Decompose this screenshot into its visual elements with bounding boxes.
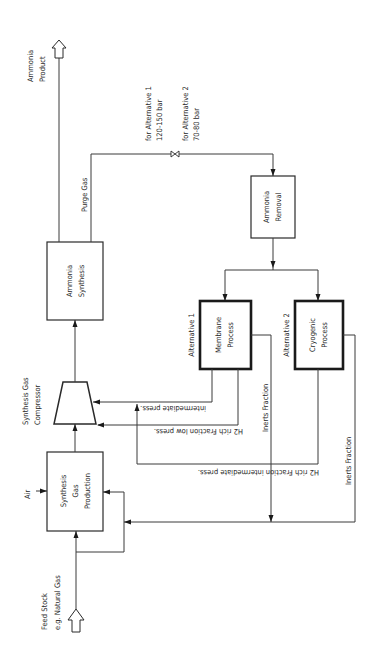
svg-text:intermediate press.: intermediate press. [140,404,206,413]
svg-text:Process: Process [320,322,329,348]
svg-text:Membrane: Membrane [214,317,223,353]
svg-text:Ammonia: Ammonia [26,50,35,82]
svg-text:Purge Gas: Purge Gas [80,177,89,212]
feed-stock-example-label: e.g. Natural Gas [53,575,62,630]
svg-text:H2 rich Fraction intermediate: H2 rich Fraction intermediate press. [198,468,319,477]
cryogenic-process-box: Cryogenic Process Alternative 2 [282,301,343,369]
purge-gas-line: Purge Gas for Alternative 1 120-150 bar … [80,86,276,242]
ammonia-product-outlet: Ammonia Product [26,40,66,242]
svg-text:for Alternative 1: for Alternative 1 [144,86,153,141]
feed-stock-inlet: Feed Stock e.g. Natural Gas [40,531,84,632]
svg-text:Product: Product [38,56,47,82]
alternative-2-label: Alternative 2 [282,313,291,356]
svg-text:Gas: Gas [71,484,80,497]
svg-text:Process: Process [226,322,235,348]
svg-text:for Alternative 2: for Alternative 2 [181,86,190,141]
svg-text:Synthesis: Synthesis [77,264,86,297]
svg-text:70-80 bar: 70-80 bar [192,108,201,141]
svg-text:Synthesis: Synthesis [59,474,68,507]
svg-text:Removal: Removal [274,192,283,221]
process-flow-diagram: Feed Stock e.g. Natural Gas Air Synthesi… [0,0,378,655]
ammonia-removal-box: Ammonia Removal [251,176,295,238]
feed-stock-label: Feed Stock [40,593,49,630]
ammonia-synthesis-box: Ammonia Synthesis [47,242,103,320]
synthesis-gas-compressor: Synthesis Gas Compressor [21,377,96,425]
svg-text:H2 rich Fraction low press.: H2 rich Fraction low press. [154,427,243,436]
membrane-process-box: Membrane Process Alternative 1 [187,301,251,369]
product-hollow-arrow-icon [52,40,66,58]
air-label: Air [23,490,32,499]
svg-text:120-150 bar: 120-150 bar [155,99,164,141]
valve-icon [171,151,179,157]
air-inlet: Air [23,489,47,500]
svg-text:Inerts Fraction: Inerts Fraction [261,384,270,432]
compressor-label-1: Synthesis Gas [21,377,30,425]
feed-hollow-arrow-icon [68,609,84,632]
svg-text:Production: Production [83,473,92,509]
svg-text:Ammonia: Ammonia [65,265,74,297]
compressor-label-2: Compressor [33,384,42,425]
membrane-inerts-line: Inerts Fraction [251,335,274,522]
svg-text:Inerts Fraction: Inerts Fraction [344,437,353,485]
synthesis-gas-production-box: Synthesis Gas Production [47,452,103,531]
svg-text:Cryogenic: Cryogenic [308,318,317,352]
alternative-1-label: Alternative 1 [187,313,196,356]
intermediate-press-line: intermediate press. [93,369,212,413]
h2-intermediate-press-line: H2 rich Fraction intermediate press. [135,369,320,477]
svg-text:Ammonia: Ammonia [262,191,271,223]
